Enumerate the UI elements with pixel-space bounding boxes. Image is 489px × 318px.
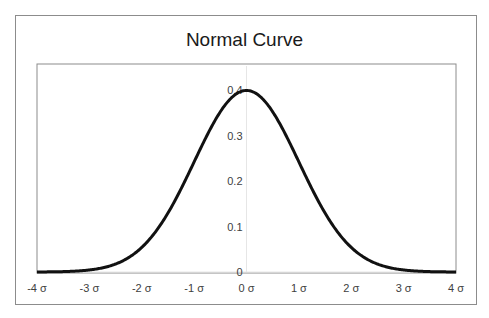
- y-tick-label: 0: [236, 266, 242, 278]
- x-tick-label: 1 σ: [291, 282, 307, 294]
- y-axis-ticks: 00.10.20.30.4: [227, 84, 242, 278]
- y-tick-label: 0.1: [227, 221, 242, 233]
- x-tick-label: -2 σ: [132, 282, 152, 294]
- x-tick-label: 4 σ: [448, 282, 464, 294]
- x-tick-label: 0 σ: [239, 282, 255, 294]
- axes: [37, 66, 456, 272]
- x-tick-label: -4 σ: [27, 282, 47, 294]
- x-axis-ticks: -4 σ-3 σ-2 σ-1 σ0 σ1 σ2 σ3 σ4 σ: [27, 282, 464, 294]
- x-tick-label: 3 σ: [396, 282, 412, 294]
- y-tick-label: 0.2: [227, 175, 242, 187]
- x-tick-label: -1 σ: [184, 282, 204, 294]
- chart-plot: 00.10.20.30.4 -4 σ-3 σ-2 σ-1 σ0 σ1 σ2 σ3…: [0, 0, 489, 318]
- x-tick-label: -3 σ: [80, 282, 100, 294]
- y-tick-label: 0.3: [227, 130, 242, 142]
- x-tick-label: 2 σ: [343, 282, 359, 294]
